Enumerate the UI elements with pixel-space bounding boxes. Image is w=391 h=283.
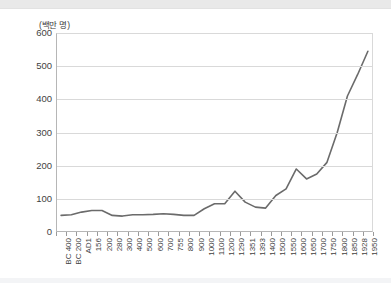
x-axis-tick [76, 232, 77, 236]
y-axis-tick-label: 300 [36, 128, 52, 138]
x-axis-tick-label: 1950 [371, 238, 379, 256]
x-axis-tick [56, 232, 57, 236]
top-gray-band [0, 0, 391, 9]
x-axis-tick [373, 232, 374, 236]
x-axis-tick-label: 1200 [228, 238, 236, 256]
x-axis-tick-label: 1650 [310, 238, 318, 256]
x-axis-tick [250, 232, 251, 236]
x-axis-tick [107, 232, 108, 236]
x-axis-tick [332, 232, 333, 236]
x-axis-tick-label: 1700 [320, 238, 328, 256]
x-axis-tick-labels: BC 400BC 200AD11562002803004005006007007… [56, 238, 373, 280]
x-axis-tick-label: 700 [167, 238, 175, 251]
y-axis-tick-label: 500 [36, 61, 52, 71]
x-axis-tick [189, 232, 190, 236]
x-axis-tick-label: 1550 [290, 238, 298, 256]
x-axis-tick-label: 1400 [269, 238, 277, 256]
x-axis-tick-label: AD1 [85, 238, 93, 254]
x-axis-tick [230, 232, 231, 236]
x-axis-tick-label: 1393 [259, 238, 267, 256]
x-axis-tick-label: 800 [187, 238, 195, 251]
y-axis-tick-labels: 0100200300400500600 [14, 33, 52, 232]
x-axis-tick [281, 232, 282, 236]
x-axis-tick [148, 232, 149, 236]
x-axis-tick-label: 500 [146, 238, 154, 251]
x-axis-tick-label: 400 [136, 238, 144, 251]
x-axis-tick-label: 900 [198, 238, 206, 251]
x-axis-tick [322, 232, 323, 236]
x-axis-tick-label: 280 [116, 238, 124, 251]
x-axis-tick [363, 232, 364, 236]
x-axis-tick [97, 232, 98, 236]
x-axis-tick [312, 232, 313, 236]
y-axis-tick-label: 400 [36, 94, 52, 104]
x-axis-tick [271, 232, 272, 236]
x-axis-tick-label: 1500 [279, 238, 287, 256]
x-axis-tick [199, 232, 200, 236]
x-axis-tick-label: 1100 [218, 238, 226, 255]
x-axis-tick [240, 232, 241, 236]
plot-area [56, 33, 373, 232]
x-axis-tick-label: 200 [106, 238, 114, 251]
x-axis-tick [138, 232, 139, 236]
x-axis-tick-label: BC 400 [65, 238, 73, 265]
chart-screenshot: (백만 명) 0100200300400500600 BC 400BC 200A… [0, 0, 391, 283]
x-axis-tick [87, 232, 88, 236]
x-axis-tick [291, 232, 292, 236]
y-axis-tick-label: 600 [36, 28, 52, 38]
x-axis-tick [342, 232, 343, 236]
x-axis-tick-label: 300 [126, 238, 134, 251]
x-axis-tick-label: BC 200 [75, 238, 83, 265]
x-axis-tick-label: 156 [95, 238, 103, 251]
x-axis-ticks [56, 232, 373, 236]
x-axis-tick-label: 1000 [208, 238, 216, 256]
x-axis-tick [66, 232, 67, 236]
x-axis-tick-label: 1290 [238, 238, 246, 256]
x-axis-tick [353, 232, 354, 236]
x-axis-tick [220, 232, 221, 236]
x-axis-tick-label: 1351 [249, 238, 257, 256]
y-axis-tick-label: 0 [47, 227, 52, 237]
x-axis-tick-label: 600 [157, 238, 165, 251]
x-axis-tick [168, 232, 169, 236]
x-axis-tick-label: 755 [177, 238, 185, 251]
x-axis-tick-label: 1800 [341, 238, 349, 256]
x-axis-tick-label: 1850 [351, 238, 359, 256]
x-axis-tick [179, 232, 180, 236]
x-axis-tick-label: 1600 [300, 238, 308, 256]
x-axis-tick [117, 232, 118, 236]
x-axis-tick [158, 232, 159, 236]
x-axis-tick [261, 232, 262, 236]
y-axis-tick-label: 200 [36, 161, 52, 171]
x-axis-tick [128, 232, 129, 236]
x-axis-tick [209, 232, 210, 236]
x-axis-tick-label: 1928 [361, 238, 369, 256]
plot-frame [56, 33, 373, 232]
y-axis-tick-label: 100 [36, 194, 52, 204]
x-axis-tick [301, 232, 302, 236]
x-axis-tick-label: 1750 [330, 238, 338, 256]
